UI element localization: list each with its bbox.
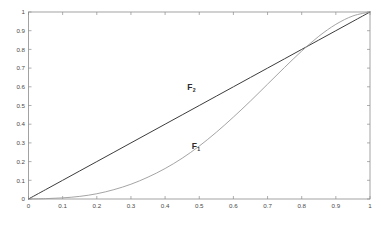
y-tick-label: 0.6: [16, 83, 25, 90]
y-tick-label: 0.1: [16, 177, 25, 184]
x-tick-label: 0.2: [92, 202, 101, 209]
chart-figure: 00.10.20.30.40.50.60.70.80.9100.10.20.30…: [0, 0, 381, 225]
curve-label-f1: F1: [192, 141, 200, 152]
curve-label-f2: F2: [187, 82, 195, 93]
y-tick-label: 1: [22, 8, 26, 15]
y-tick-label: 0.9: [16, 27, 25, 34]
y-tick-label: 0.2: [16, 158, 25, 165]
y-tick-label: 0.3: [16, 139, 25, 146]
y-tick-labels: 00.10.20.30.40.50.60.70.80.91: [16, 8, 25, 202]
series-curve-f2: [29, 12, 371, 199]
y-tick-label: 0: [22, 195, 26, 202]
x-tick-label: 0.9: [332, 202, 341, 209]
y-tick-label: 0.4: [16, 120, 25, 127]
x-tick-label: 0: [27, 202, 31, 209]
x-tick-label: 0.1: [58, 202, 67, 209]
x-tick-label: 0.4: [161, 202, 170, 209]
curve-label-subscript-f1: 1: [197, 146, 200, 152]
y-tick-label: 0.7: [16, 64, 25, 71]
x-tick-label: 0.3: [127, 202, 136, 209]
y-tick-label: 0.8: [16, 46, 25, 53]
x-tick-label: 0.8: [297, 202, 306, 209]
curve-label-subscript-f2: 2: [193, 87, 196, 93]
x-tick-label: 1: [368, 202, 372, 209]
x-tick-labels: 00.10.20.30.40.50.60.70.80.91: [27, 202, 373, 209]
plot-svg: 00.10.20.30.40.50.60.70.80.9100.10.20.30…: [0, 0, 381, 225]
x-tick-label: 0.5: [195, 202, 204, 209]
y-tick-label: 0.5: [16, 102, 25, 109]
x-tick-label: 0.6: [229, 202, 238, 209]
x-tick-label: 0.7: [263, 202, 272, 209]
